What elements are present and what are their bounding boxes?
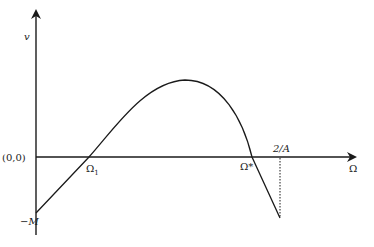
omega1-label: Ω1 — [86, 163, 99, 177]
origin-label: (0,0) — [2, 152, 26, 163]
y-axis-label: v — [24, 31, 30, 42]
y-intercept-label: −M — [20, 216, 39, 227]
diagram-figure: v Ω (0,0) −M Ω1 Ω* 2/A — [0, 0, 374, 247]
two-over-A-label: 2/A — [272, 143, 290, 154]
v-curve — [36, 80, 280, 218]
omega-star-label: Ω* — [240, 161, 253, 172]
x-axis-label: Ω — [349, 163, 357, 174]
